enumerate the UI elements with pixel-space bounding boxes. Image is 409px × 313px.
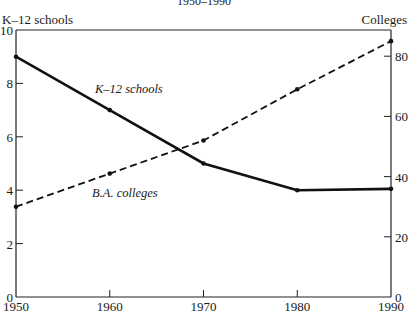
data-point-marker [14, 54, 19, 59]
x-tick-label: 1950 [3, 299, 29, 313]
ba-colleges-line [16, 41, 391, 207]
data-point-marker [295, 188, 300, 193]
x-tick-label: 1960 [97, 299, 123, 313]
left-tick-label: 8 [7, 76, 14, 91]
data-point-marker [201, 138, 206, 143]
left-axis-ticks: 0246810 [0, 23, 23, 305]
x-tick-label: 1980 [284, 299, 310, 313]
left-tick-label: 2 [7, 237, 14, 252]
right-axis-title: Colleges [362, 12, 408, 27]
data-point-marker [14, 204, 19, 209]
right-axis-ticks: 020406080 [384, 49, 408, 305]
x-tick-label: 1970 [191, 299, 217, 313]
left-tick-label: 6 [7, 130, 14, 145]
data-point-marker [107, 108, 112, 113]
left-tick-label: 4 [7, 183, 14, 198]
right-tick-label: 40 [395, 170, 408, 185]
right-tick-label: 20 [395, 230, 408, 245]
series-layer [14, 39, 394, 209]
x-tick-label: 1990 [378, 299, 404, 313]
chart-title: 1950–1990 [177, 0, 231, 8]
data-point-marker [107, 171, 112, 176]
right-tick-label: 60 [395, 109, 408, 124]
series-label-k12: K–12 schools [94, 82, 163, 96]
data-point-marker [389, 187, 394, 192]
x-axis-ticks: 19501960197019801990 [3, 290, 404, 313]
k12-schools-line [16, 57, 391, 191]
data-point-marker [389, 39, 394, 44]
series-label-colleges: B.A. colleges [92, 186, 158, 200]
data-point-marker [295, 87, 300, 92]
data-point-marker [201, 161, 206, 166]
dual-axis-line-chart: 1950–1990 K–12 schools Colleges 0246810 … [0, 0, 409, 313]
right-tick-label: 80 [395, 49, 408, 64]
left-tick-label: 10 [0, 23, 13, 38]
